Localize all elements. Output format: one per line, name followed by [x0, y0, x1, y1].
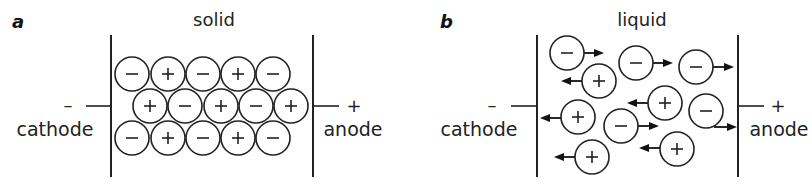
anion	[186, 57, 220, 91]
ionic-conduction-diagram: a solid – + cathode anode b liquid – + c…	[0, 0, 812, 184]
cathode-sign: –	[64, 94, 73, 115]
anion	[604, 109, 659, 143]
liquid-mobile-ions	[540, 36, 737, 174]
panel-a-solid: a solid – + cathode anode	[12, 9, 383, 177]
cation	[639, 132, 694, 166]
cation	[221, 121, 255, 155]
cathode-label: cathode	[17, 118, 94, 140]
cation	[274, 89, 308, 123]
anion	[256, 121, 290, 155]
cathode-label: cathode	[441, 118, 518, 140]
arrow-head-icon	[561, 77, 571, 85]
panel-title-liquid: liquid	[617, 9, 666, 30]
cation	[540, 100, 595, 134]
anode-label: anode	[323, 118, 382, 140]
arrow-head-icon	[554, 153, 564, 161]
arrow-head-icon	[649, 122, 659, 130]
anion	[115, 57, 149, 91]
cation	[151, 121, 185, 155]
panel-label-a: a	[12, 11, 24, 32]
anode-sign: +	[770, 95, 785, 116]
cation	[133, 89, 167, 123]
arrow-head-icon	[639, 144, 649, 152]
solid-ion-lattice	[115, 57, 308, 155]
anion	[186, 121, 220, 155]
arrow-head-icon	[594, 49, 604, 57]
arrow-head-icon	[663, 59, 673, 67]
anion	[619, 46, 673, 80]
anode-sign: +	[346, 95, 361, 116]
cation	[554, 140, 609, 174]
anion	[689, 94, 737, 131]
cation	[221, 57, 255, 91]
arrow-head-icon	[727, 123, 737, 131]
anion	[679, 50, 734, 84]
cation	[204, 89, 238, 123]
arrow-head-icon	[627, 99, 637, 107]
cathode-sign: –	[488, 94, 497, 115]
anion	[115, 121, 149, 155]
panel-b-liquid: b liquid – + cathode anode	[440, 9, 809, 177]
panel-label-b: b	[440, 11, 453, 32]
arrow-head-icon	[724, 63, 734, 71]
panel-title-solid: solid	[193, 9, 235, 30]
anion	[256, 57, 290, 91]
anion	[239, 89, 273, 123]
anion	[168, 89, 202, 123]
arrow-head-icon	[540, 114, 550, 122]
anode-label: anode	[749, 118, 808, 140]
cation	[151, 57, 185, 91]
cation	[627, 86, 682, 120]
